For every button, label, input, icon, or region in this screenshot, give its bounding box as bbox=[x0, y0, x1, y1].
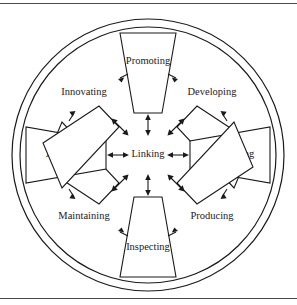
boundary-arrow-inspecting-right-icon bbox=[168, 228, 178, 236]
segment-innovating-label: Innovating bbox=[61, 86, 107, 97]
boundary-arrow-developing-outer-icon bbox=[221, 111, 228, 121]
wheel-diagram-svg: Promoting Developing Organising Producin… bbox=[0, 0, 297, 305]
boundary-arrow-innovating-outer-icon bbox=[69, 111, 76, 121]
segment-maintaining-label: Maintaining bbox=[58, 210, 110, 221]
center-arrow-right-icon bbox=[167, 152, 189, 158]
segment-inspecting-shape bbox=[120, 197, 176, 277]
boundary-arrow-inspecting-left-icon bbox=[118, 228, 128, 236]
segment-producing-label: Producing bbox=[190, 210, 234, 221]
segment-inspecting[interactable]: Inspecting bbox=[120, 197, 176, 277]
center-arrow-left-icon bbox=[107, 152, 129, 158]
boundary-arrow-maintaining-outer-icon bbox=[69, 189, 76, 199]
segment-promoting-label: Promoting bbox=[126, 55, 171, 66]
segment-promoting[interactable]: Promoting bbox=[120, 33, 176, 113]
boundary-arrow-producing-outer-icon bbox=[221, 189, 228, 199]
boundary-arrow-promoting-left-icon bbox=[118, 74, 128, 82]
boundary-arrow-promoting-right-icon bbox=[168, 74, 178, 82]
center-hub-label: Linking bbox=[131, 148, 165, 159]
figure-root: Promoting Developing Organising Producin… bbox=[0, 0, 297, 305]
center-arrow-down-icon bbox=[145, 174, 151, 196]
segment-inspecting-label: Inspecting bbox=[126, 241, 170, 252]
center-arrow-up-icon bbox=[145, 114, 151, 136]
segment-developing-label: Developing bbox=[188, 86, 238, 97]
segment-promoting-shape bbox=[120, 33, 176, 113]
